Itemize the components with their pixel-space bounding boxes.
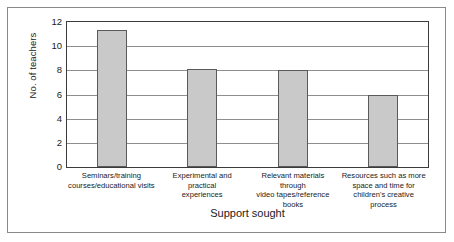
y-axis-tick-label: 12 (40, 16, 62, 27)
y-axis-tick-label: 10 (40, 40, 62, 51)
x-axis-category-label-line: Experimental and practical (158, 171, 247, 190)
bar (97, 30, 127, 167)
x-axis-category-label-line: Seminars/training (67, 171, 156, 181)
y-axis-tick-label: 8 (40, 64, 62, 75)
y-axis-tick-label: 6 (40, 88, 62, 99)
y-axis-tick-label: 0 (40, 161, 62, 172)
bar (187, 69, 217, 167)
y-axis-tick-label: 2 (40, 136, 62, 147)
plot-area (66, 21, 429, 168)
figure-frame: No. of teachers 121086420 Seminars/train… (7, 7, 446, 233)
x-axis-category-label-line: experiences (158, 190, 247, 200)
bar (368, 95, 398, 168)
y-axis-tick-label: 4 (40, 112, 62, 123)
bar (278, 70, 308, 167)
y-axis-tick-labels: 121086420 (34, 21, 62, 168)
x-axis-category-label-line: space and time for (339, 181, 428, 191)
x-axis-category-label-line: Resources such as more (339, 171, 428, 181)
x-axis-title: Support sought (66, 207, 429, 219)
x-axis-category-label-line: courses/educational visits (67, 181, 156, 191)
x-axis-category-label-line: Relevant materials through (249, 171, 338, 190)
